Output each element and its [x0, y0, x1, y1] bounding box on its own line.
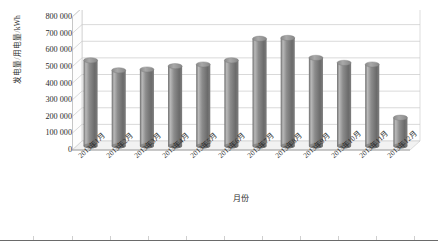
rule-tick: [262, 236, 263, 240]
y-tick-label: 200 000: [22, 113, 72, 121]
rule-tick: [224, 236, 225, 240]
rule-tick: [33, 236, 34, 240]
y-axis-tick-labels: 0100 000200 000300 000400 000500 000600 …: [20, 0, 72, 248]
bar-7: [253, 36, 267, 148]
y-tick-label: 700 000: [22, 30, 72, 38]
x-axis-title: 月份: [233, 192, 249, 203]
y-tick-label: 600 000: [22, 46, 72, 54]
y-tick-label: 0: [22, 146, 72, 154]
bottom-divider: [0, 240, 438, 241]
rule-tick: [300, 236, 301, 240]
rule-tick: [72, 236, 73, 240]
rule-tick: [338, 236, 339, 240]
rule-tick: [110, 236, 111, 240]
y-tick-label: 400 000: [22, 80, 72, 88]
y-tick-label: 800 000: [22, 13, 72, 21]
rule-tick: [186, 236, 187, 240]
rule-tick: [148, 236, 149, 240]
y-tick-label: 100 000: [22, 129, 72, 137]
rule-tick: [414, 236, 415, 240]
rule-tick: [376, 236, 377, 240]
chart-figure: 发电量/用电量/kWh 0100 000200 000300 000400 00…: [0, 0, 438, 248]
bar-8: [281, 35, 295, 148]
y-tick-label: 500 000: [22, 63, 72, 71]
y-tick-label: 300 000: [22, 96, 72, 104]
